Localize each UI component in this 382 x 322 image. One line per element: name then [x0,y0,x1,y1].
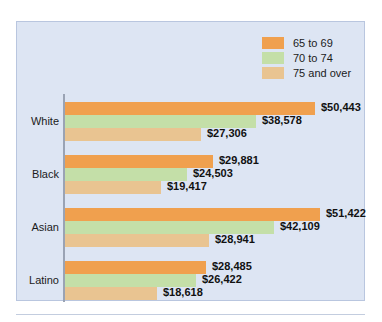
bar-group: Latino$28,485$26,422$18,618 [17,261,366,300]
footer-divider [16,314,365,315]
bar-value-label: $29,881 [219,154,259,166]
chart-legend: 65 to 6970 to 7475 and over [262,36,366,81]
legend-item-label: 75 and over [293,67,351,79]
bar-value-label: $42,109 [280,220,320,232]
plot-area: White$50,443$38,578$27,306Black$29,881$2… [17,94,366,302]
chart-figure: 65 to 6970 to 7475 and over White$50,443… [0,0,382,322]
bar-group: Asian$51,422$42,109$28,941 [17,208,366,247]
bar[interactable] [65,181,161,194]
bar-value-label: $26,422 [202,273,242,285]
bar-group: White$50,443$38,578$27,306 [17,102,366,141]
bar-value-label: $24,503 [193,167,233,179]
bar-value-label: $19,417 [167,180,207,192]
legend-item[interactable]: 65 to 69 [262,36,366,50]
bar[interactable] [65,261,206,274]
legend-item-label: 70 to 74 [293,52,333,64]
category-label: Asian [17,221,59,233]
bar-value-label: $38,578 [262,114,302,126]
category-label: Latino [17,274,59,286]
bar-value-label: $18,618 [163,286,203,298]
bar-group: Black$29,881$24,503$19,417 [17,155,366,194]
category-label: Black [17,168,59,180]
legend-item-label: 65 to 69 [293,37,333,49]
bar-value-label: $51,422 [326,207,366,219]
category-label: White [17,115,59,127]
bar[interactable] [65,287,157,300]
bar-value-label: $28,485 [212,260,252,272]
bar[interactable] [65,128,201,141]
chart-panel: 65 to 6970 to 7475 and over White$50,443… [16,21,365,301]
bar-value-label: $27,306 [207,127,247,139]
bar[interactable] [65,234,209,247]
bar[interactable] [65,155,213,168]
legend-item[interactable]: 70 to 74 [262,51,366,65]
bar-value-label: $50,443 [321,101,361,113]
legend-item[interactable]: 75 and over [262,66,366,80]
legend-swatch-icon [262,37,284,49]
legend-swatch-icon [262,52,284,64]
legend-swatch-icon [262,67,284,79]
bar-value-label: $28,941 [215,233,255,245]
